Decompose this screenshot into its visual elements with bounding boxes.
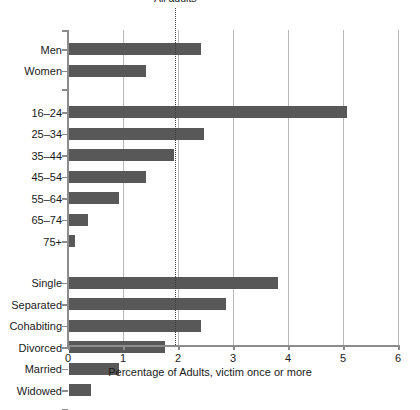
bar-women (69, 65, 146, 77)
y-tick-0 (62, 49, 68, 51)
bar-cohabiting (69, 320, 201, 332)
category-label-separated: Separated (0, 299, 62, 311)
y-tick-4 (62, 155, 68, 157)
category-label-widowed: Widowed (0, 385, 62, 397)
category-label-45-54: 45–54 (0, 171, 62, 183)
bar-35-44 (69, 149, 174, 161)
y-tick-group-1 (62, 89, 68, 91)
category-label-75-: 75+ (0, 236, 62, 248)
y-axis-line (67, 30, 69, 346)
x-tick-4 (288, 345, 290, 350)
category-label-35-44: 35–44 (0, 150, 62, 162)
category-label-25-34: 25–34 (0, 128, 62, 140)
gridline-5 (343, 30, 344, 345)
y-tick-9 (62, 283, 68, 285)
y-tick-5 (62, 177, 68, 179)
x-tick-1 (123, 345, 125, 350)
x-tick-6 (398, 345, 400, 350)
gridline-4 (288, 30, 289, 345)
bar-widowed (69, 384, 91, 396)
y-tick-6 (62, 198, 68, 200)
all-adults-reference-line (175, 8, 176, 345)
category-label-65-74: 65–74 (0, 214, 62, 226)
x-tick-0 (68, 345, 70, 350)
y-tick-2 (62, 112, 68, 114)
bar-25-34 (69, 128, 204, 140)
bar-divorced (69, 341, 165, 353)
y-tick-10 (62, 304, 68, 306)
x-tick-label-2: 2 (175, 352, 181, 364)
x-tick-3 (233, 345, 235, 350)
bar-45-54 (69, 171, 146, 183)
y-tick-8 (62, 241, 68, 243)
category-label-cohabiting: Cohabiting (0, 320, 62, 332)
bar-75- (69, 235, 75, 247)
category-label-55-64: 55–64 (0, 193, 62, 205)
y-tick-1 (62, 71, 68, 73)
x-tick-label-0: 0 (65, 352, 71, 364)
bar-separated (69, 298, 226, 310)
y-tick-11 (62, 326, 68, 328)
bar-55-64 (69, 192, 119, 204)
x-tick-label-5: 5 (340, 352, 346, 364)
x-axis-title: Percentage of Adults, victim once or mor… (0, 366, 420, 378)
bar-men (69, 43, 201, 55)
category-label-men: Men (0, 44, 62, 56)
x-tick-label-6: 6 (395, 352, 401, 364)
plot-area: All adults (68, 30, 398, 345)
category-label-single: Single (0, 277, 62, 289)
category-label-16-24: 16–24 (0, 107, 62, 119)
x-tick-label-1: 1 (120, 352, 126, 364)
bar-16-24 (69, 106, 347, 118)
y-tick-14 (62, 390, 68, 392)
x-tick-2 (178, 345, 180, 350)
y-tick-group-0 (62, 30, 68, 32)
gridline-6 (398, 30, 399, 345)
x-tick-5 (343, 345, 345, 350)
all-adults-label: All adults (154, 0, 197, 4)
x-tick-label-3: 3 (230, 352, 236, 364)
y-tick-3 (62, 134, 68, 136)
category-label-divorced: Divorced (0, 342, 62, 354)
y-tick-7 (62, 220, 68, 222)
x-tick-label-4: 4 (285, 352, 291, 364)
category-label-women: Women (0, 65, 62, 77)
bar-single (69, 277, 278, 289)
gridline-3 (233, 30, 234, 345)
bar-65-74 (69, 214, 88, 226)
